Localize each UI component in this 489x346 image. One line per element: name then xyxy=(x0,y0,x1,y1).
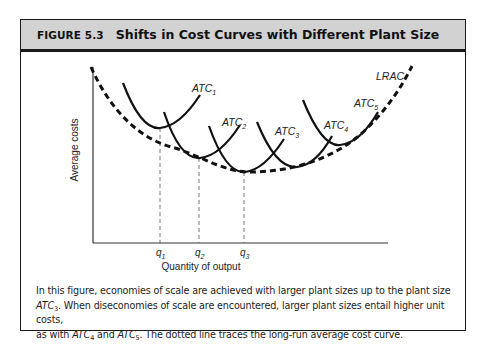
caption-line-1: In this figure, economies of scale are a… xyxy=(36,284,466,299)
atc5-label: ATC5 xyxy=(353,97,378,111)
caption-line-3: as with ATC4 and ATC5. The dotted line t… xyxy=(36,328,466,343)
atc3-label: ATC3 xyxy=(274,125,299,139)
q1-label: q1 xyxy=(156,247,166,260)
figure-caption: In this figure, economies of scale are a… xyxy=(36,284,466,342)
lrac-curve xyxy=(91,66,412,172)
atc4-label: ATC4 xyxy=(323,119,348,133)
x-axis-label: Quantity of output xyxy=(162,261,241,272)
atc1-label: ATC1 xyxy=(191,82,216,96)
y-axis-label: Average costs xyxy=(69,118,80,181)
q3-label: q3 xyxy=(240,247,250,260)
lrac-label: LRAC xyxy=(376,70,404,82)
atc2-label: ATC2 xyxy=(221,116,246,130)
q2-label: q2 xyxy=(195,247,205,260)
caption-line-2: ATC3. When diseconomies of scale are enc… xyxy=(36,299,466,328)
atc1-curve xyxy=(123,83,200,128)
